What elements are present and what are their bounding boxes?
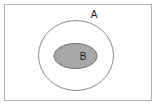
set-diagram-svg: A B [0,0,161,111]
set-b-label: B [80,51,87,62]
set-b-ellipse[interactable] [54,44,97,69]
set-a-label: A [91,9,98,20]
set-diagram-canvas: A B [0,0,161,111]
